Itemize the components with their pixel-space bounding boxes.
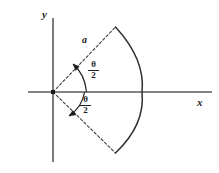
lower-angle-denominator: 2 — [80, 106, 91, 115]
lower-angle-numerator: θ — [80, 95, 91, 104]
origin-point — [51, 90, 55, 94]
radius-label-a: a — [82, 35, 87, 45]
upper-angle-label: θ 2 — [88, 60, 99, 81]
y-axis-label: y — [42, 9, 47, 20]
x-axis-label: x — [197, 97, 203, 108]
upper-angle-numerator: θ — [88, 60, 99, 69]
sector-arc — [116, 27, 143, 153]
lower-angle-label: θ 2 — [80, 95, 91, 116]
geometry-figure: y x a θ 2 θ 2 — [0, 0, 219, 173]
upper-angle-denominator: 2 — [88, 71, 99, 80]
figure-canvas — [0, 0, 219, 173]
